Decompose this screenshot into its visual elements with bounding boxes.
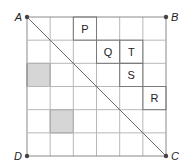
corner-point-b bbox=[164, 15, 168, 19]
corner-label-b: B bbox=[171, 11, 178, 23]
corner-point-d bbox=[25, 154, 29, 158]
shaded-cell bbox=[50, 110, 73, 133]
cell-label-r: R bbox=[150, 92, 158, 104]
corner-point-c bbox=[164, 154, 168, 158]
corner-label-a: A bbox=[14, 11, 22, 23]
corner-point-a bbox=[25, 15, 29, 19]
cell-label-s: S bbox=[128, 69, 135, 81]
corner-label-d: D bbox=[14, 150, 22, 162]
shaded-cell bbox=[27, 63, 50, 86]
cell-label-t: T bbox=[128, 46, 135, 58]
cell-label-p: P bbox=[81, 23, 88, 35]
cell-label-q: Q bbox=[104, 46, 113, 58]
grid-diagram: PQTSR ABCD bbox=[0, 0, 184, 166]
corner-label-c: C bbox=[171, 150, 179, 162]
